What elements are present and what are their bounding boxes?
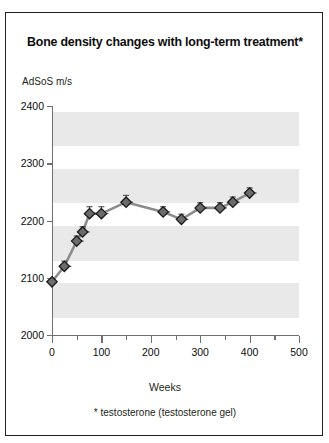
data-series (47, 106, 299, 341)
y-axis-tick-label: 2300 (21, 157, 44, 169)
x-axis-tick-label: 200 (142, 346, 160, 358)
y-axis-label: AdSoS m/s (22, 76, 72, 87)
figure-panel: Bone density changes with long-term trea… (5, 12, 323, 436)
x-axis-tick-label: 100 (93, 346, 111, 358)
chart-footnote: * testosterone (testosterone gel) (6, 407, 324, 418)
data-point-marker (121, 197, 131, 207)
x-axis-label: Weeks (6, 381, 324, 393)
x-axis-tick-label: 400 (241, 346, 259, 358)
x-axis-tick-label: 500 (290, 346, 308, 358)
y-axis-tick-label: 2000 (21, 329, 44, 341)
plot-area: 20002100220023002400 0100200300400500 (47, 106, 299, 341)
chart-title: Bone density changes with long-term trea… (6, 35, 324, 49)
y-axis-tick-label: 2100 (21, 272, 44, 284)
x-axis-tick-label: 300 (191, 346, 209, 358)
x-axis-tick (299, 336, 300, 343)
data-point-marker (84, 208, 94, 218)
y-axis-tick-label: 2200 (21, 215, 44, 227)
data-point-marker (244, 188, 254, 198)
data-point-marker (96, 208, 106, 218)
y-axis-tick-label: 2400 (21, 100, 44, 112)
data-point-marker (228, 197, 238, 207)
data-point-marker (158, 207, 168, 217)
data-point-marker (215, 203, 225, 213)
x-axis-tick-label: 0 (49, 346, 55, 358)
